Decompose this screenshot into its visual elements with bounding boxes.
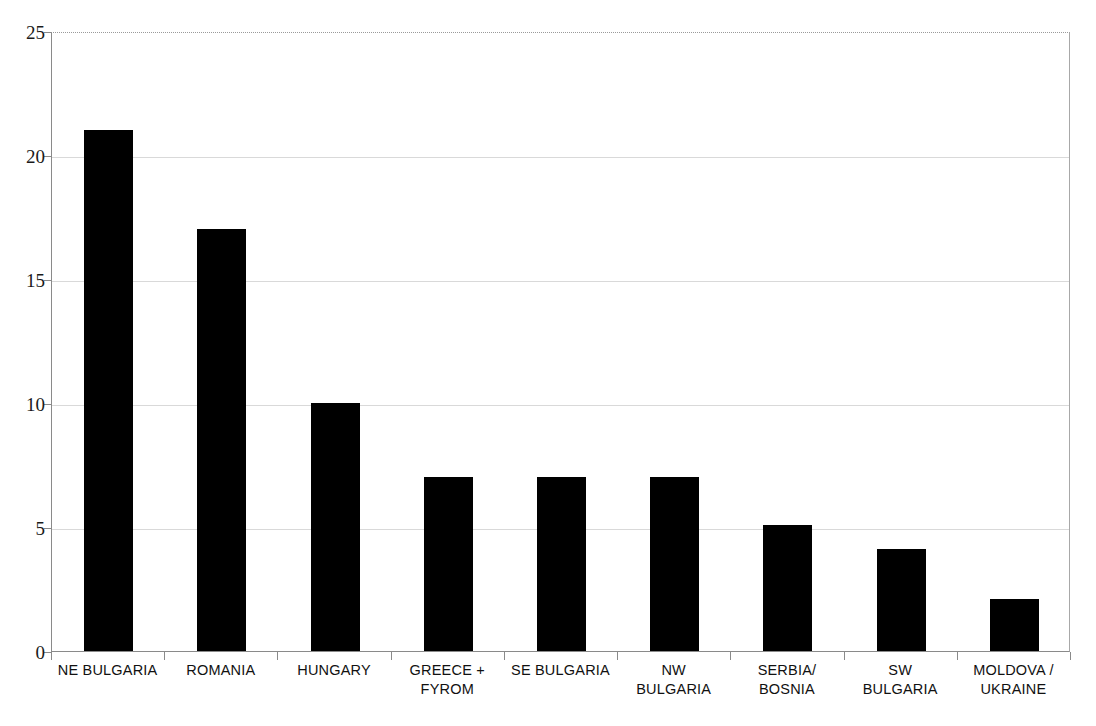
x-axis-category-label-line: NE BULGARIA xyxy=(51,661,164,680)
x-axis-category-label-line: NW xyxy=(617,661,730,680)
y-axis-tick-label: 5 xyxy=(1,519,45,538)
x-axis-category-label-line: FYROM xyxy=(391,680,504,699)
x-axis-category-label-line: UKRAINE xyxy=(957,680,1070,699)
x-axis-category-label-line: SE BULGARIA xyxy=(504,661,617,680)
y-axis-tickmark xyxy=(44,32,51,33)
bar xyxy=(84,130,133,651)
bar xyxy=(537,477,586,651)
x-axis-category-label: MOLDOVA /UKRAINE xyxy=(957,661,1070,699)
x-axis-category-label: SE BULGARIA xyxy=(504,661,617,680)
x-axis-category-label-line: GREECE + xyxy=(391,661,504,680)
bar xyxy=(877,549,926,651)
x-axis-category-label-line: HUNGARY xyxy=(277,661,390,680)
x-axis-category-label: NWBULGARIA xyxy=(617,661,730,699)
x-axis-category-label: ROMANIA xyxy=(164,661,277,680)
x-axis-category-label: SERBIA/BOSNIA xyxy=(730,661,843,699)
x-axis-category-label-line: BULGARIA xyxy=(844,680,957,699)
x-axis-tickmark xyxy=(730,652,731,660)
x-axis-category-label: SWBULGARIA xyxy=(844,661,957,699)
y-axis-tickmark xyxy=(44,404,51,405)
x-axis-tickmark xyxy=(391,652,392,660)
x-axis-category-label-line: SERBIA/ xyxy=(730,661,843,680)
bar xyxy=(197,229,246,651)
bar xyxy=(650,477,699,651)
y-axis-tick-label: 0 xyxy=(1,643,45,662)
bar xyxy=(990,599,1039,651)
x-axis-tickmark xyxy=(1070,652,1071,660)
x-axis-category-label: HUNGARY xyxy=(277,661,390,680)
gridline xyxy=(52,157,1069,158)
x-axis-category-label: GREECE +FYROM xyxy=(391,661,504,699)
y-axis-tickmark xyxy=(44,528,51,529)
bar-chart: 0510152025 NE BULGARIAROMANIAHUNGARYGREE… xyxy=(0,0,1096,726)
x-axis-category-label: NE BULGARIA xyxy=(51,661,164,680)
x-axis-tickmark xyxy=(164,652,165,660)
y-axis-labels: 0510152025 xyxy=(0,0,45,726)
y-axis-tick-label: 25 xyxy=(1,23,45,42)
bar xyxy=(311,403,360,651)
bar xyxy=(763,525,812,651)
x-axis-category-label-line: BULGARIA xyxy=(617,680,730,699)
y-axis-tickmark xyxy=(44,280,51,281)
x-axis-category-label-line: BOSNIA xyxy=(730,680,843,699)
y-axis-tick-label: 20 xyxy=(1,147,45,166)
x-axis-category-label-line: SW xyxy=(844,661,957,680)
y-axis-tickmark xyxy=(44,652,51,653)
y-axis-tick-label: 10 xyxy=(1,395,45,414)
x-axis-tickmark xyxy=(277,652,278,660)
x-axis-tickmark xyxy=(51,652,52,660)
x-axis-labels: NE BULGARIAROMANIAHUNGARYGREECE +FYROMSE… xyxy=(51,661,1070,721)
x-axis-tickmark xyxy=(957,652,958,660)
x-axis-tickmark xyxy=(617,652,618,660)
x-axis-category-label-line: MOLDOVA / xyxy=(957,661,1070,680)
y-axis-tick-label: 15 xyxy=(1,271,45,290)
x-axis-tickmark xyxy=(504,652,505,660)
x-axis-category-label-line: ROMANIA xyxy=(164,661,277,680)
plot-area xyxy=(51,32,1070,652)
y-axis-tickmark xyxy=(44,156,51,157)
bar xyxy=(424,477,473,651)
x-axis-tickmark xyxy=(844,652,845,660)
